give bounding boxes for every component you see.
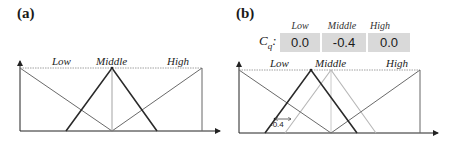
panel-b-plot (239, 62, 438, 133)
panel-b-shifted-middle-mf (265, 70, 357, 133)
panel-a-middle-mf (66, 68, 157, 131)
panel-a-high-mf (112, 68, 202, 131)
panel-b-original-middle-mf (285, 70, 376, 133)
membership-functions-diagram (0, 0, 451, 141)
panel-a-plot (20, 61, 220, 131)
panel-a-low-mf (20, 68, 112, 131)
panel-b-high-mf (331, 70, 420, 133)
